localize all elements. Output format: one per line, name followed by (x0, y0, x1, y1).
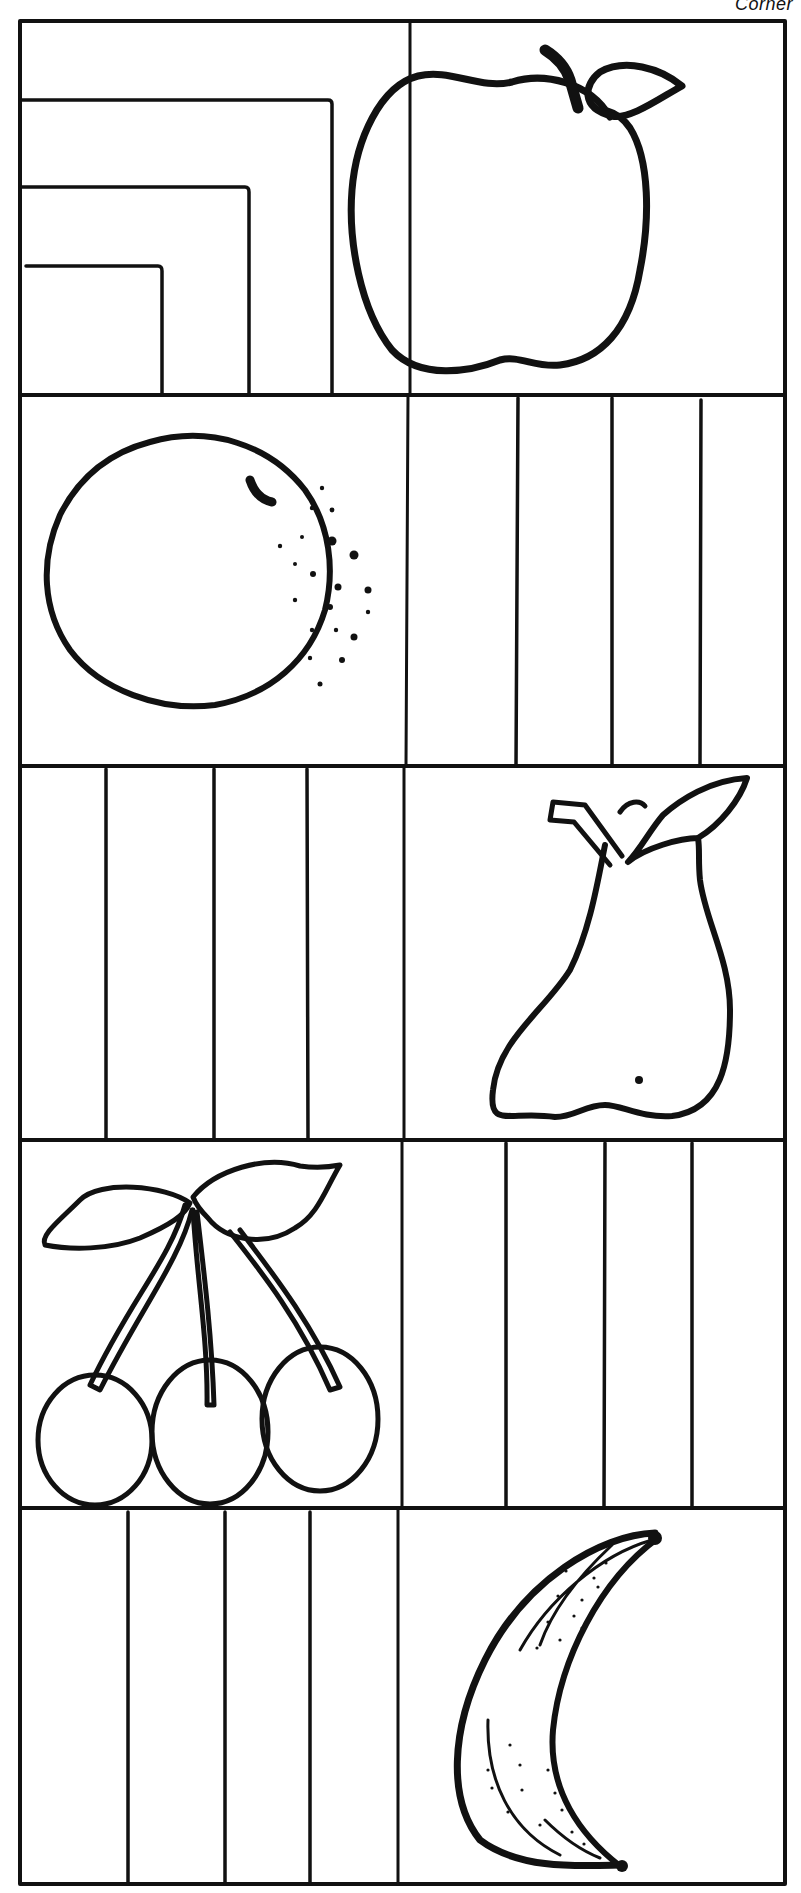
orange-icon (47, 436, 372, 706)
banana-icon (457, 1531, 662, 1872)
nested-corner-lines (22, 100, 332, 395)
vertical-stripes-r4 (506, 1143, 692, 1508)
vertical-stripes-r2 (516, 398, 701, 766)
apple-icon (351, 50, 682, 371)
vertical-stripes-r5 (128, 1512, 310, 1884)
column-dividers (398, 21, 410, 1884)
vertical-stripes-r3 (106, 769, 308, 1140)
fruit-worksheet (0, 0, 801, 1893)
pear-icon (492, 778, 747, 1117)
cherries-icon (38, 1162, 378, 1505)
